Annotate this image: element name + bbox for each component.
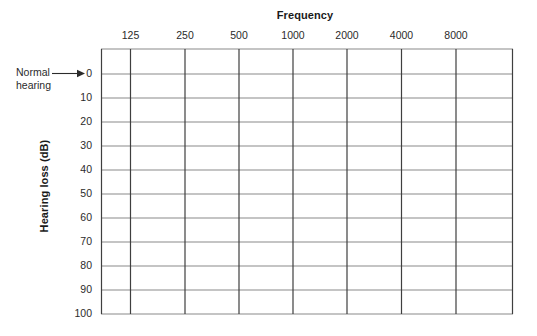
horizontal-grid-lines: [101, 74, 513, 290]
audiogram-chart: Frequency 125 250 500 1000 2000 4000 800…: [0, 0, 537, 336]
normal-hearing-arrow-icon: [52, 70, 85, 77]
audiogram-grid: [0, 0, 537, 336]
plot-border: [101, 49, 513, 314]
vertical-grid-lines: [102, 49, 513, 314]
